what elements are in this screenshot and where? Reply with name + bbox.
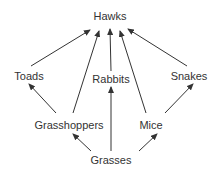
- arrow-grasses-to-mice: [139, 134, 157, 151]
- arrow-mice-to-hawks: [120, 31, 146, 113]
- arrow-mice-to-snakes: [165, 84, 193, 113]
- arrow-grasshoppers-to-hawks: [73, 31, 99, 113]
- arrow-rabbits-to-hawks: [110, 29, 111, 71]
- node-snakes: Snakes: [170, 70, 209, 82]
- arrows-layer: [0, 0, 220, 177]
- node-grasshoppers: Grasshoppers: [33, 119, 104, 131]
- node-toads: Toads: [13, 70, 44, 82]
- arrow-snakes-to-hawks: [128, 29, 187, 66]
- node-rabbits: Rabbits: [91, 73, 130, 85]
- arrow-grasses-to-grasshoppers: [73, 134, 91, 151]
- node-mice: Mice: [138, 119, 163, 131]
- food-web-diagram: Hawks Toads Rabbits Snakes Grasshoppers …: [0, 0, 220, 177]
- node-grasses: Grasses: [90, 154, 133, 166]
- arrow-grasshoppers-to-toads: [29, 84, 56, 113]
- node-hawks: Hawks: [92, 10, 127, 22]
- arrow-toads-to-hawks: [31, 30, 90, 66]
